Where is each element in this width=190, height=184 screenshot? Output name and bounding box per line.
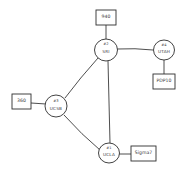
- imp-name-sri: SRI: [96, 50, 116, 54]
- host-label-pdp10: PDP10: [153, 79, 175, 84]
- imp-number-sri: #2: [96, 43, 116, 47]
- imp-number-ucla: #1: [99, 147, 119, 151]
- link-sri-utah: [117, 49, 153, 50]
- imp-number-ucsb: #3: [46, 100, 66, 104]
- imp-name-utah: UTAH: [154, 50, 174, 54]
- host-label-360: 360: [12, 99, 31, 104]
- imp-number-utah: #4: [154, 44, 174, 48]
- link-ucsb-ucla: [64, 115, 100, 150]
- imp-name-ucsb: UCSB: [46, 107, 66, 111]
- link-360-ucsb: [31, 103, 46, 104]
- network-diagram: [0, 0, 190, 184]
- host-label-940: 940: [96, 15, 116, 20]
- imp-name-ucla: UCLA: [99, 153, 119, 157]
- host-label-sigma7: Sigma7: [131, 151, 156, 156]
- link-sri-ucsb: [65, 58, 98, 98]
- link-sri-ucla: [108, 61, 110, 143]
